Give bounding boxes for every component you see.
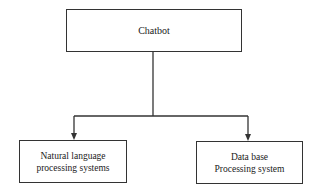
database-processing-node: Data base Processing system xyxy=(196,141,303,184)
nlp-systems-node-label: Natural language processing systems xyxy=(36,150,109,174)
arrowhead-db-icon xyxy=(245,134,251,141)
chatbot-node: Chatbot xyxy=(66,9,242,52)
diagram-canvas: Chatbot Natural language processing syst… xyxy=(0,0,316,195)
database-processing-node-label: Data base Processing system xyxy=(215,151,285,175)
chatbot-node-label: Chatbot xyxy=(138,25,170,37)
arrowhead-nlp-icon xyxy=(71,133,77,140)
nlp-systems-node: Natural language processing systems xyxy=(19,140,127,183)
